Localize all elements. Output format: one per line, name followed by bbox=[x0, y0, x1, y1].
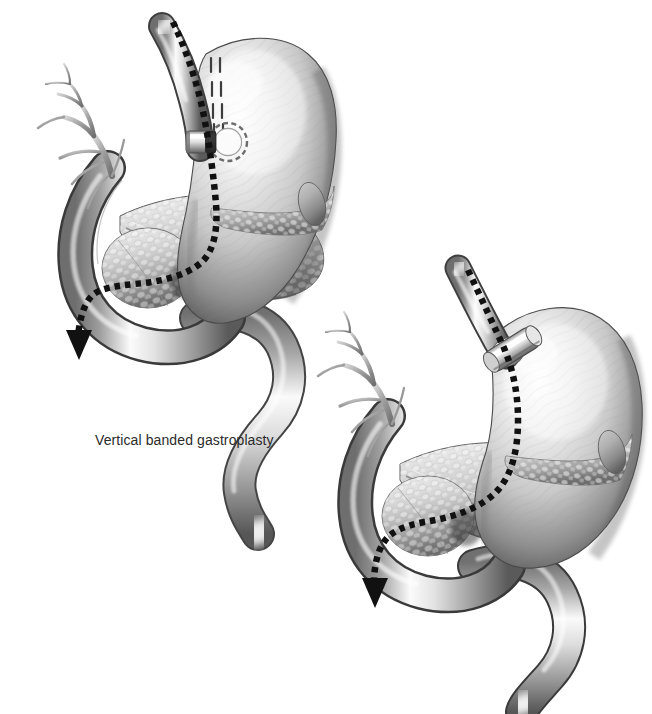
bariatric-surgery-illustration bbox=[0, 0, 652, 714]
band-collar bbox=[186, 131, 216, 153]
figure-caption: Vertical banded gastroplasty bbox=[95, 431, 274, 449]
